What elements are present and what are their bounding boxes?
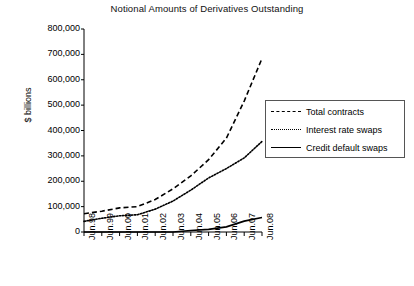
legend-label-interest-rate-swaps: Interest rate swaps (306, 125, 382, 135)
series-line-credit-default-swaps (84, 218, 262, 232)
legend-item-total-contracts: Total contracts (271, 104, 364, 120)
legend-line-dashed-icon (271, 107, 301, 117)
axes (81, 29, 262, 236)
legend-label-credit-default-swaps: Credit default swaps (306, 143, 388, 153)
series-line-total-contracts (84, 58, 262, 213)
legend-item-interest-rate-swaps: Interest rate swaps (271, 122, 382, 138)
chart-container: Notional Amounts of Derivatives Outstand… (0, 0, 414, 286)
legend-line-dotted-icon (271, 125, 301, 135)
chart-legend: Total contracts Interest rate swaps Cred… (265, 100, 405, 158)
legend-line-solid-icon (271, 143, 301, 153)
legend-label-total-contracts: Total contracts (306, 107, 364, 117)
legend-item-credit-default-swaps: Credit default swaps (271, 140, 388, 156)
data-series-group (84, 58, 262, 232)
